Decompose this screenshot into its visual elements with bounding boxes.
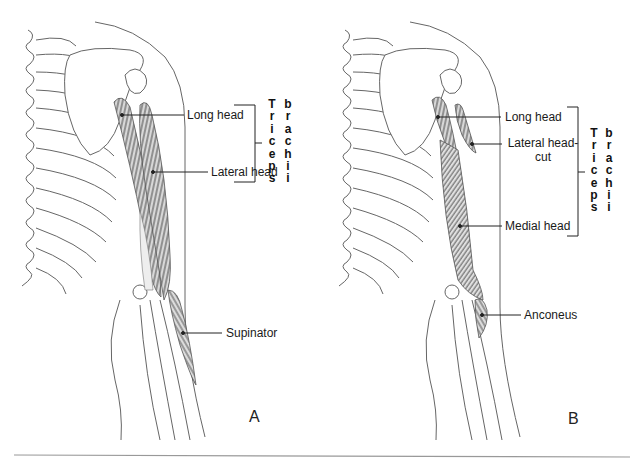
label-anconeus-b: Anconeus <box>524 308 577 322</box>
label-lateral-head-cut-b: Lateral head- cut <box>503 136 583 164</box>
panel-letter-b: B <box>568 410 579 428</box>
label-supinator-a: Supinator <box>226 326 277 340</box>
panel-letter-a: A <box>249 408 260 426</box>
bottom-rule <box>14 455 630 457</box>
panel-b-drawing <box>339 22 520 440</box>
label-long-head-a: Long head <box>187 108 244 122</box>
brachii-vertical-a: b r a c h i i <box>283 98 293 185</box>
label-medial-head-b: Medial head <box>505 219 570 233</box>
triceps-vertical-a: T r i c e p s <box>267 98 277 185</box>
brachii-vertical-b: b r a c h i i <box>604 127 614 214</box>
medial-head-muscle-b <box>440 140 483 300</box>
anconeus-muscle-b <box>475 299 487 338</box>
supinator-muscle-a <box>168 290 196 385</box>
triceps-vertical-b: T r i c e p s <box>589 127 599 214</box>
panel-a-drawing <box>22 22 205 440</box>
label-long-head-b: Long head <box>505 110 562 124</box>
